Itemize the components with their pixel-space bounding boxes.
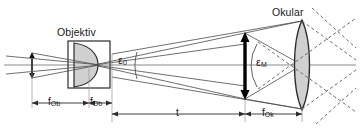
eyepiece-title-label: Okular [272,7,304,18]
eyepiece-ray-lower-to-center [245,65,302,99]
object-arrow-head-top [29,52,35,58]
focal-eyepiece-subscript: Ok [265,111,274,118]
dashed-ray-e [312,8,356,48]
focal-objective-right-subscript: Ob [93,100,102,107]
ray-diagram-canvas [0,0,360,129]
dimension-fok-arrowhead-start [245,112,251,117]
dimension-fok-arrowhead-end [296,112,302,117]
intermediate-image-arrow-group [241,32,250,100]
dashed-ray-d [302,70,356,109]
eyepiece-group [295,20,310,110]
eyepiece-lens-shape [295,20,310,110]
angle-image-subscript: M [261,61,267,68]
focal-objective-left-label: fOb [48,97,60,107]
angle-object-label: ε0 [118,55,127,66]
tube-length-label: t [176,108,179,118]
optical-diagram-figure: Objektiv Okular ε0 εM fOb fOb t fOk [0,0,360,129]
objective-title-label: Objektiv [57,27,96,38]
dimension-fob-left-arrowhead-end [83,101,89,106]
dimension-fob-left-arrowhead-start [32,101,38,106]
objective-lens-shape [74,43,98,87]
focal-objective-left-subscript: Ob [51,100,60,107]
dimension-t-arrowhead-start [112,112,118,117]
image-ray-lower-inner [96,65,245,86]
angle-object-subscript: 0 [123,59,127,66]
dimension-fob-right-arrowhead-end [106,101,112,106]
image-ray-lower-edge [96,66,245,100]
dimension-t-arrowhead-end [239,112,245,117]
dashed-ray-f [316,88,356,124]
dimension-fob-left-group [32,101,89,106]
focal-objective-right-label: fOb [90,97,102,107]
angle-image-label: εM [256,57,267,68]
eyepiece-ray-upper-to-center [245,33,302,65]
focal-eyepiece-label: fOk [262,108,274,118]
